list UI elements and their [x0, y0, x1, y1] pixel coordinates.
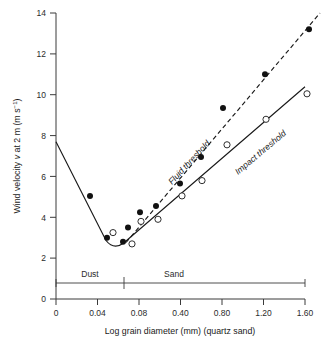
data-point-open: [110, 230, 116, 236]
data-point-open: [179, 193, 185, 199]
y-tick-label: 0: [41, 294, 46, 304]
y-tick-label: 14: [37, 8, 47, 18]
data-point-open: [224, 142, 230, 148]
data-point-filled: [137, 209, 143, 215]
y-axis-title-tail: ): [12, 98, 22, 101]
data-point-filled: [306, 26, 312, 32]
data-point-filled: [220, 105, 226, 111]
data-point-open: [263, 116, 269, 122]
y-tick-label: 4: [41, 213, 46, 223]
chart-background: [0, 0, 328, 344]
x-tick-label: 0.40: [172, 308, 189, 318]
x-tick-label: 0.04: [89, 308, 106, 318]
y-axis-title-prefix: Wind velocity: [12, 159, 22, 213]
x-tick-label: 0.08: [131, 308, 148, 318]
wind-velocity-threshold-chart: 14 12 10 8 6 4 2 0 Wind velocity v at 2 …: [0, 0, 328, 344]
y-tick-label: 12: [37, 49, 47, 59]
sand-zone-label: Sand: [164, 269, 184, 279]
y-axis-title: Wind velocity v at 2 m (m s−1): [11, 98, 22, 213]
data-point-open: [199, 178, 205, 184]
x-axis-title: Log grain diameter (mm) (quartz sand): [105, 326, 256, 336]
y-tick-label: 6: [41, 172, 46, 182]
chart-figure: 14 12 10 8 6 4 2 0 Wind velocity v at 2 …: [0, 0, 328, 344]
data-point-open: [138, 218, 144, 224]
y-axis-title-mid: at 2 m (m s: [12, 108, 22, 155]
data-point-open: [304, 91, 310, 97]
data-point-filled: [120, 239, 126, 245]
x-tick-label: 0.80: [214, 308, 231, 318]
data-point-open: [129, 241, 135, 247]
y-tick-label: 2: [41, 253, 46, 263]
y-tick-label: 8: [41, 131, 46, 141]
dust-zone-label: Dust: [81, 269, 99, 279]
data-point-filled: [104, 235, 110, 241]
data-point-filled: [87, 193, 93, 199]
x-tick-label: 1.60: [297, 308, 314, 318]
x-tick-label: 1.20: [255, 308, 272, 318]
x-tick-label: 0: [54, 308, 59, 318]
y-tick-label: 10: [37, 90, 47, 100]
data-point-open: [155, 216, 161, 222]
data-point-filled: [153, 203, 159, 209]
data-point-filled: [125, 225, 131, 231]
data-point-filled: [262, 71, 268, 77]
